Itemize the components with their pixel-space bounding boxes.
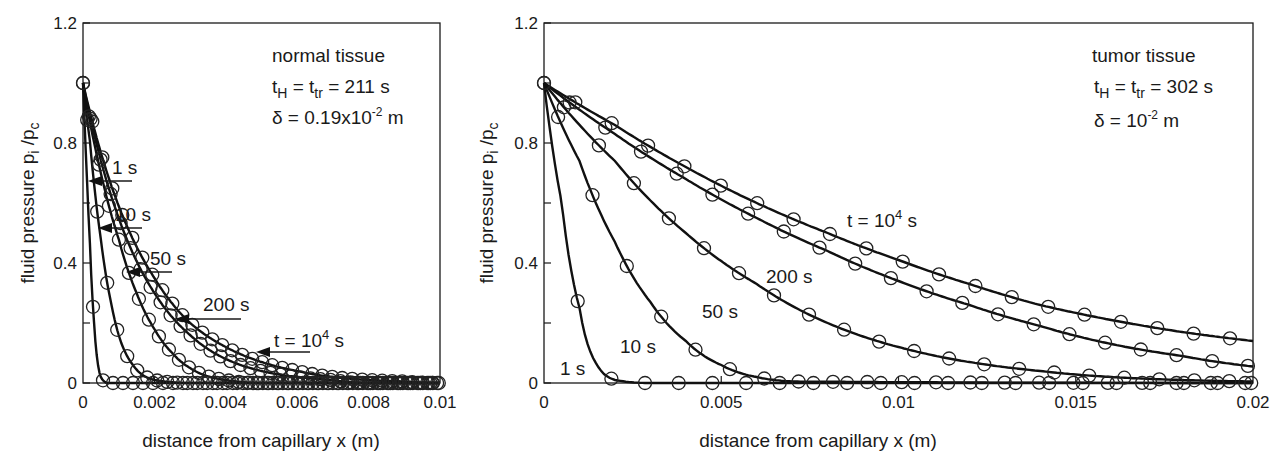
left-panel-normal-tissue: 00.0020.0040.0060.0080.0100.40.81.2 1 s1… [17, 14, 457, 451]
x-tick-label: 0 [539, 393, 548, 412]
x-tick-label: 0.02 [1236, 393, 1269, 412]
right-annotation-time: tH = ttr = 302 s [1094, 76, 1213, 101]
curve-label: 10 s [620, 336, 656, 357]
x-tick-label: 0.015 [1054, 393, 1097, 412]
curve-label: 1 s [112, 157, 137, 178]
curve-label: 200 s [766, 266, 812, 287]
right-y-axis-label: fluid pressure pi /pc [476, 122, 501, 283]
curve-label: 50 s [702, 301, 738, 322]
curve-label: 200 s [203, 294, 249, 315]
left-annotation-title: normal tissue [272, 45, 385, 66]
y-tick-label: 0.8 [514, 134, 538, 153]
x-tick-label: 0.004 [205, 393, 248, 412]
left-annotation-delta: δ = 0.19x10-2 m [272, 105, 404, 128]
y-tick-label: 0.4 [53, 254, 77, 273]
x-tick-label: 0.006 [276, 393, 319, 412]
x-tick-label: 0 [78, 393, 87, 412]
y-tick-label: 1.2 [514, 14, 538, 33]
right-annotation-delta: δ = 10-2 m [1094, 108, 1179, 131]
left-curve-labels: 1 s10 s50 s200 st = 104 s [88, 157, 344, 357]
left-y-axis-label: fluid pressure pi /pc [17, 122, 42, 283]
left-annotation-time: tH = ttr = 211 s [272, 76, 390, 101]
x-tick-label: 0.008 [347, 393, 390, 412]
right-annotation-title: tumor tissue [1092, 45, 1195, 66]
curve-label: 10 s [115, 204, 151, 225]
curve-label: 1 s [560, 358, 585, 379]
x-tick-label: 0.005 [700, 393, 743, 412]
left-x-axis-label: distance from capillary x (m) [142, 430, 380, 451]
curve-label: t = 104 s [847, 207, 917, 231]
figure-canvas: 00.0020.0040.0060.0080.0100.40.81.2 1 s1… [0, 0, 1287, 475]
curve-label: 50 s [150, 248, 186, 269]
y-tick-label: 0.4 [514, 254, 538, 273]
right-x-axis-label: distance from capillary x (m) [699, 430, 937, 451]
curve-label: t = 104 s [274, 327, 344, 351]
y-tick-label: 1.2 [53, 14, 77, 33]
right-curve-labels: 1 s10 s50 s200 st = 104 s [560, 207, 917, 379]
right-panel-tumor-tissue: 00.0050.010.0150.0200.40.81.2 1 s10 s50 … [476, 14, 1270, 451]
y-tick-label: 0 [68, 374, 77, 393]
y-tick-label: 0 [529, 374, 538, 393]
x-tick-label: 0.01 [423, 393, 456, 412]
y-tick-label: 0.8 [53, 134, 77, 153]
x-tick-label: 0.002 [133, 393, 176, 412]
x-tick-label: 0.01 [882, 393, 915, 412]
